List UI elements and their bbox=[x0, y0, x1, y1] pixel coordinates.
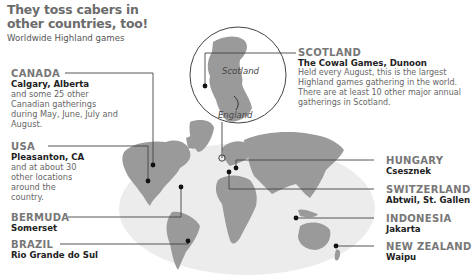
callout-hungary: HUNGARY Csesznek bbox=[386, 155, 443, 176]
description: Held every August, this is the largest H… bbox=[298, 68, 474, 108]
dot-hungary bbox=[234, 166, 239, 171]
dot-brazil bbox=[186, 239, 191, 244]
dot-canada bbox=[151, 163, 156, 168]
callout-canada: CANADA Calgary, Alberta and some 25 othe… bbox=[11, 68, 121, 129]
country-label: INDONESIA bbox=[386, 213, 451, 224]
place-label: Jakarta bbox=[386, 224, 451, 234]
place-label: Csesznek bbox=[386, 166, 443, 176]
page-subtitle: Worldwide Highland games bbox=[7, 33, 124, 44]
place-label: Calgary, Alberta bbox=[11, 79, 121, 89]
place-label: Waipu bbox=[386, 252, 472, 262]
callout-bermuda: BERMUDA Somerset bbox=[11, 212, 69, 233]
inset-label-england: England bbox=[218, 110, 253, 120]
description: and some 25 other Canadian gatherings du… bbox=[11, 89, 121, 129]
country-label: SWITZERLAND bbox=[386, 184, 471, 195]
callout-switzerland: SWITZERLAND Abtwil, St. Gallen bbox=[386, 184, 471, 205]
country-label: BERMUDA bbox=[11, 212, 69, 223]
callout-scotland: SCOTLAND The Cowal Games, Dunoon Held ev… bbox=[298, 47, 474, 108]
callout-brazil: BRAZIL Rio Grande do Sul bbox=[11, 239, 98, 260]
dot-new-zealand bbox=[334, 244, 339, 249]
page-title: They toss cabers in other countries, too… bbox=[7, 3, 177, 31]
place-label: Pleasanton, CA bbox=[11, 152, 91, 162]
place-label: Abtwil, St. Gallen bbox=[386, 195, 471, 205]
country-label: BRAZIL bbox=[11, 239, 98, 250]
dot-indonesia bbox=[294, 216, 299, 221]
dot-usa bbox=[146, 179, 151, 184]
dot-scotland bbox=[203, 84, 208, 89]
callout-indonesia: INDONESIA Jakarta bbox=[386, 213, 451, 234]
country-label: HUNGARY bbox=[386, 155, 443, 166]
place-label: Somerset bbox=[11, 223, 69, 233]
callout-usa: USA Pleasanton, CA and at about 30 other… bbox=[11, 141, 91, 202]
country-label: NEW ZEALAND bbox=[386, 241, 472, 252]
description: and at about 30 other locations around t… bbox=[11, 162, 91, 202]
place-label: Rio Grande do Sul bbox=[11, 250, 98, 260]
place-label: The Cowal Games, Dunoon bbox=[298, 58, 474, 68]
dot-bermuda bbox=[179, 185, 184, 190]
country-label: SCOTLAND bbox=[298, 47, 474, 58]
dot-switzerland bbox=[227, 170, 232, 175]
callout-new-zealand: NEW ZEALAND Waipu bbox=[386, 241, 472, 262]
country-label: USA bbox=[11, 141, 91, 152]
inset-label-scotland: Scotland bbox=[222, 66, 260, 76]
country-label: CANADA bbox=[11, 68, 121, 79]
